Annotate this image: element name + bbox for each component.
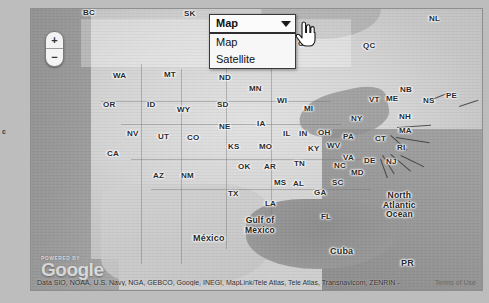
state-label-id: ID [147,100,155,109]
state-label-tn: TN [294,159,305,168]
state-label-co: CO [187,133,199,142]
state-label-pa: PA [343,132,354,141]
chevron-down-icon [281,21,291,27]
state-label-mo: MO [259,142,272,151]
state-label-bc: BC [83,8,95,17]
state-label-ms: MS [274,178,286,187]
map-type-option-satellite[interactable]: Satellite [210,51,295,68]
state-label-wa: WA [113,71,126,80]
state-label-ok: OK [238,162,250,171]
map-attribution-text: Data SIO, NOAA, U.S. Navy, NGA, GEBCO, G… [37,279,478,286]
state-label-ca: CA [107,149,119,158]
state-label-al: AL [293,179,304,188]
state-label-pe: PE [446,91,457,100]
state-label-nd: ND [219,73,231,82]
state-label-nj: NJ [386,157,397,166]
terms-of-use-link[interactable]: Terms of Use [435,279,476,286]
map-type-selected-label: Map [216,17,238,29]
water-label-line: Ocean [383,210,416,220]
border-line [181,69,182,264]
map-type-selected-value[interactable]: Map [210,15,295,34]
state-label-wi: WI [277,96,287,105]
state-label-il: IL [283,129,291,138]
state-label-ne: NE [219,122,231,131]
map-type-option-map[interactable]: Map [210,34,295,51]
state-label-ny: NY [351,114,363,123]
state-label-fl: FL [321,212,331,221]
water-label-north-atlantic: NorthAtlanticOcean [383,191,416,220]
border-line [121,124,341,125]
state-label-nv: NV [127,129,139,138]
state-label-mn: MN [249,84,262,93]
state-label-la: LA [265,199,276,208]
place-label-m-xico: México [193,233,225,243]
state-label-ar: AR [264,162,276,171]
google-brand-text: Google [41,261,103,278]
state-label-ri: RI [397,143,405,152]
state-label-ut: UT [158,132,169,141]
edge-marker-label: c [2,128,6,135]
zoom-out-button[interactable]: − [46,49,63,65]
state-label-ct: CT [375,134,386,143]
zoom-in-button[interactable]: + [46,32,63,49]
zoom-control[interactable]: + − [45,31,64,67]
state-label-ns: NS [423,96,435,105]
place-label-pr: PR [401,258,414,268]
border-line [151,189,371,190]
state-label-me: ME [386,94,398,103]
state-label-nh: NH [399,112,411,121]
state-label-sd: SD [217,100,229,109]
water-label-line: Mexico [245,226,275,236]
state-label-qc: QC [363,41,375,50]
state-label-ia: IA [257,119,265,128]
state-label-nl: NL [429,14,440,23]
state-label-nb: NB [400,85,412,94]
border-line [101,101,331,102]
state-label-oh: OH [318,128,330,137]
border-line [141,64,142,264]
state-label-nm: NM [181,171,194,180]
state-label-sk: SK [184,9,196,18]
state-label-mi: MI [304,104,313,113]
state-label-de: DE [364,156,376,165]
state-label-or: OR [103,100,115,109]
state-label-vt: VT [369,95,380,104]
map-type-dropdown[interactable]: Map Map Satellite [209,14,296,69]
map-canvas[interactable]: BCSKONQCNLWAMTNDORIDWYSDMNWIMINEIANVUTCO… [30,8,483,291]
state-label-ma: MA [399,126,412,135]
state-label-ky: KY [308,144,320,153]
state-label-ga: GA [314,188,326,197]
place-label-cuba: Cuba [330,246,353,256]
hand-cursor-icon [295,21,317,47]
google-watermark: POWERED BY Google [41,255,103,278]
state-label-md: MD [351,168,364,177]
state-label-sc: SC [332,178,344,187]
border-line [131,159,361,160]
state-label-tx: TX [228,189,239,198]
state-label-mt: MT [164,70,176,79]
map-screenshot: BCSKONQCNLWAMTNDORIDWYSDMNWIMINEIANVUTCO… [0,0,489,303]
water-label-gulf-of-mexico: Gulf ofMexico [245,216,275,235]
state-label-in: IN [299,129,307,138]
state-label-nc: NC [334,161,346,170]
state-label-wv: WV [327,141,340,150]
state-label-az: AZ [153,171,164,180]
state-label-wy: WY [177,105,190,114]
state-label-ks: KS [228,142,240,151]
